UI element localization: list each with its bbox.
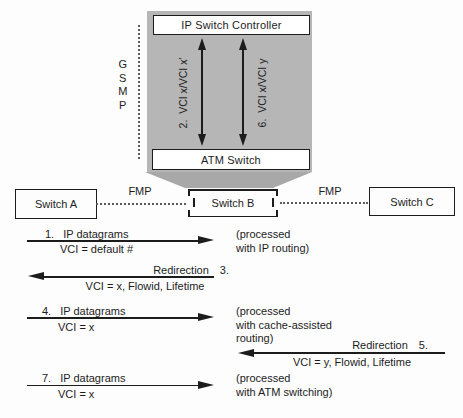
arrowhead-up-icon bbox=[239, 38, 247, 50]
gsmp-letter: S bbox=[114, 72, 132, 86]
ip-switch-controller-label: IP Switch Controller bbox=[181, 19, 281, 31]
arrow-shaft bbox=[253, 352, 445, 354]
controller-block bbox=[147, 11, 312, 172]
fmp-link-left bbox=[96, 203, 186, 205]
message-3-title: Redirection bbox=[153, 264, 209, 276]
arrow-shaft bbox=[27, 317, 200, 319]
gsmp-arrow-left-label: 2. VCI x/VCI x' bbox=[176, 38, 190, 148]
atm-switch-label: ATM Switch bbox=[201, 154, 261, 166]
switch-a-box: Switch A bbox=[15, 189, 97, 219]
fmp-label-right: FMP bbox=[310, 185, 350, 197]
arrow-shaft bbox=[242, 44, 244, 140]
gsmp-letter: G bbox=[114, 58, 132, 72]
arrow-shaft bbox=[27, 240, 200, 242]
message-1-detail: VCI = default # bbox=[60, 243, 133, 255]
gsmp-dotted-line bbox=[138, 25, 140, 159]
gsmp-label: G S M P bbox=[114, 58, 132, 112]
message-4-label: 4.IP datagrams bbox=[42, 305, 125, 317]
arrow-shaft bbox=[27, 385, 200, 387]
message-1-label: 1.IP datagrams bbox=[45, 228, 128, 240]
message-7-note: (processed with ATM switching) bbox=[236, 372, 332, 399]
switch-c-label: Switch C bbox=[390, 196, 433, 208]
arrow-shaft bbox=[43, 276, 214, 278]
message-3-number: 3. bbox=[220, 264, 229, 276]
message-5-number: 5. bbox=[419, 339, 428, 351]
switch-a-label: Switch A bbox=[35, 198, 77, 210]
message-7-number: 7. bbox=[42, 372, 51, 384]
gsmp-letter: P bbox=[114, 99, 132, 113]
arrowhead-right-icon bbox=[198, 381, 214, 389]
arrowhead-right-icon bbox=[198, 236, 214, 244]
switch-b-label-wrap: Switch B bbox=[188, 190, 278, 215]
arrowhead-left-icon bbox=[28, 272, 44, 280]
arrow-shaft bbox=[201, 44, 203, 140]
gsmp-letter: M bbox=[114, 85, 132, 99]
atm-switch-box: ATM Switch bbox=[152, 149, 310, 170]
arrowhead-left-icon bbox=[238, 349, 254, 357]
message-7-detail: VCI = x bbox=[58, 388, 94, 400]
ip-switching-diagram: G S M P IP Switch Controller ATM Switch … bbox=[0, 0, 463, 418]
message-4-title: IP datagrams bbox=[60, 305, 125, 317]
message-3-label: Redirection3. bbox=[111, 264, 229, 276]
switch-c-box: Switch C bbox=[369, 187, 455, 216]
gsmp-arrow-right-label: 6. VCI x/VCI y bbox=[255, 38, 269, 148]
funnel-connector bbox=[145, 172, 312, 188]
ip-switch-controller-box: IP Switch Controller bbox=[153, 15, 310, 35]
fmp-link-right bbox=[280, 202, 368, 204]
message-3-detail: VCI = x, Flowid, Lifetime bbox=[65, 280, 225, 292]
message-1-note: (processed with IP routing) bbox=[236, 228, 309, 255]
arrowhead-down-icon bbox=[198, 134, 206, 146]
fmp-label-left: FMP bbox=[120, 185, 160, 197]
message-7-title: IP datagrams bbox=[60, 372, 125, 384]
message-1-number: 1. bbox=[45, 228, 54, 240]
message-1-title: IP datagrams bbox=[63, 228, 128, 240]
message-7-label: 7.IP datagrams bbox=[42, 372, 125, 384]
message-5-label: Redirection5. bbox=[296, 339, 428, 351]
message-4-detail: VCI = x bbox=[58, 321, 94, 333]
switch-b-label: Switch B bbox=[212, 197, 255, 209]
message-4-number: 4. bbox=[42, 305, 51, 317]
message-5-detail: VCI = y, Flowid, Lifetime bbox=[272, 356, 432, 368]
arrowhead-right-icon bbox=[198, 313, 214, 321]
arrowhead-down-icon bbox=[239, 134, 247, 146]
arrowhead-up-icon bbox=[198, 38, 206, 50]
message-5-title: Redirection bbox=[352, 339, 408, 351]
bracket-bottom bbox=[188, 216, 278, 218]
